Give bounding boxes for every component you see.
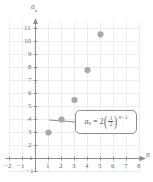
y-tick-label-9: 9 bbox=[28, 51, 32, 58]
x-tick-label-2: 2 bbox=[59, 163, 63, 170]
formula-coefficient: 2 bbox=[99, 118, 103, 126]
y-tick-label-7: 7 bbox=[28, 77, 32, 84]
data-point bbox=[58, 116, 64, 122]
formula-exponent-variable: n bbox=[118, 114, 121, 120]
data-point bbox=[45, 129, 51, 135]
data-point bbox=[97, 31, 103, 37]
formula-paren-close: ) bbox=[114, 114, 117, 129]
sequence-scatter-figure: an n 11 10 9 8 7 6 5 4 3 2 1 −1 −2 −1 1 … bbox=[0, 0, 153, 182]
plot-svg bbox=[0, 0, 153, 182]
y-tick-label-4: 4 bbox=[28, 116, 32, 123]
formula-exponent-constant: 1 bbox=[125, 114, 128, 120]
y-tick-label-neg1: −1 bbox=[26, 168, 33, 175]
y-tick-label-10: 10 bbox=[24, 38, 31, 45]
y-tick-label-1: 1 bbox=[29, 155, 33, 162]
y-axis-label: an bbox=[31, 3, 37, 14]
x-tick-label-6: 6 bbox=[111, 163, 115, 170]
y-tick-label-11: 11 bbox=[24, 25, 31, 32]
formula-paren-open: ( bbox=[104, 114, 107, 129]
formula-lhs-sub: n bbox=[88, 121, 91, 126]
formula-expression: an = 2 ( 1 2 ) n−1 bbox=[84, 114, 127, 129]
data-point bbox=[71, 97, 77, 103]
x-axis-label: n bbox=[146, 151, 150, 159]
formula-exponent: n−1 bbox=[118, 115, 127, 120]
y-tick-label-6: 6 bbox=[28, 90, 32, 97]
formula-fraction-numerator: 1 bbox=[109, 116, 114, 121]
formula-callout: an = 2 ( 1 2 ) n−1 bbox=[75, 110, 137, 134]
x-tick-label-7: 7 bbox=[124, 163, 128, 170]
x-tick-label-neg1: −1 bbox=[17, 163, 24, 170]
y-axis-label-sub: n bbox=[35, 8, 38, 13]
y-axis-arrow bbox=[33, 18, 38, 24]
x-tick-label-4: 4 bbox=[85, 163, 89, 170]
x-tick-label-8: 8 bbox=[137, 163, 141, 170]
data-point bbox=[84, 67, 90, 73]
y-tick-label-3: 3 bbox=[28, 129, 32, 136]
y-tick-label-5: 5 bbox=[28, 103, 32, 110]
x-tick-label-neg2: −2 bbox=[4, 163, 11, 170]
y-tick-label-8: 8 bbox=[28, 64, 32, 71]
x-tick-label-5: 5 bbox=[98, 163, 102, 170]
formula-fraction: 1 2 bbox=[108, 116, 113, 128]
formula-fraction-denominator: 2 bbox=[109, 122, 114, 127]
formula-equals: = bbox=[93, 118, 98, 126]
x-tick-label-3: 3 bbox=[72, 163, 76, 170]
y-tick-label-2: 2 bbox=[28, 142, 32, 149]
x-tick-label-1: 1 bbox=[46, 163, 50, 170]
